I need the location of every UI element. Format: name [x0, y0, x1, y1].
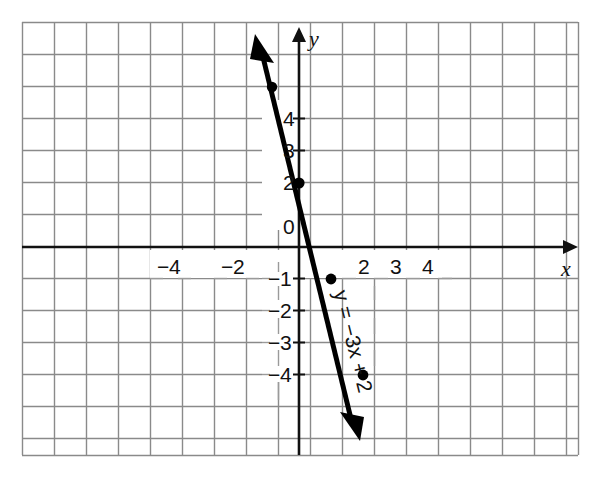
x-axis-label: x	[561, 258, 571, 280]
y-tick-label-2: 2	[283, 172, 294, 193]
y-tick-label-3: 3	[283, 140, 294, 161]
y-tick-label-0: 0	[283, 216, 294, 237]
line-arrow-up	[250, 34, 274, 63]
x-tick-label-4: 4	[422, 256, 433, 277]
y-tick-label-neg3: −3	[268, 332, 291, 353]
y-tick-label-neg2: −2	[268, 300, 291, 321]
x-tick-label-3: 3	[390, 256, 401, 277]
coordinate-plane-svg	[0, 0, 596, 477]
x-tick-label-neg4: −4	[157, 256, 180, 277]
label-gutter-mask	[150, 100, 442, 382]
x-tick-label-2: 2	[358, 256, 369, 277]
y-axis-label: y	[309, 28, 319, 50]
x-tick-label-neg2: −2	[221, 256, 244, 277]
y-axis	[292, 27, 306, 455]
y-tick-label-4: 4	[283, 108, 294, 129]
line-arrow-down	[340, 412, 364, 441]
point-marker	[267, 82, 277, 92]
graph-figure: −4 −2 2 3 4 4 3 2 0 −1 −2 −3 −4 y x y = …	[0, 0, 596, 477]
y-tick-label-neg4: −4	[268, 364, 291, 385]
y-tick-label-neg1: −1	[268, 268, 291, 289]
point-marker	[293, 177, 304, 188]
point-marker	[326, 274, 337, 285]
